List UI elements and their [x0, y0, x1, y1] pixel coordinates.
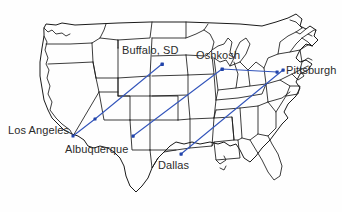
city-label-los-angeles: Los Angeles	[8, 125, 69, 136]
marker-pittsburgh-secondary	[282, 69, 285, 72]
us-route-map: Los Angeles Albuquerque Buffalo, SD Oshk…	[0, 0, 342, 212]
marker-route-2-origin	[132, 135, 135, 138]
city-label-pittsburgh: Pittsburgh	[286, 65, 337, 76]
route-los-angeles-to-buffalo-sd	[73, 64, 162, 136]
marker-oshkosh	[221, 68, 224, 71]
map-graphic	[0, 0, 342, 212]
city-label-oshkosh: Oshkosh	[196, 50, 240, 61]
marker-albuquerque	[94, 118, 97, 121]
route-albuquerque-to-pittsburgh	[133, 69, 277, 136]
city-label-albuquerque: Albuquerque	[65, 144, 129, 155]
marker-los-angeles	[72, 135, 75, 138]
city-label-buffalo-sd: Buffalo, SD	[122, 45, 179, 56]
marker-pittsburgh	[276, 71, 279, 74]
city-label-dallas: Dallas	[158, 160, 189, 171]
route-dallas-to-pittsburgh	[181, 70, 283, 154]
marker-buffalo-sd	[161, 63, 164, 66]
marker-dallas	[180, 153, 183, 156]
